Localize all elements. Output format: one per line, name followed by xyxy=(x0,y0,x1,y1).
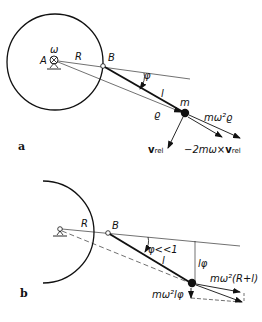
panel-label-b: b xyxy=(20,287,28,300)
mass-dot-b xyxy=(188,279,196,287)
label-vrel: vrel xyxy=(148,144,164,155)
label-coriolis: −2mω×vrel xyxy=(184,144,241,155)
label-l-b: l xyxy=(162,255,165,266)
resultant-arrow xyxy=(196,285,242,302)
panel-label-a: a xyxy=(18,140,25,153)
label-radial-force: mω²(R+l) xyxy=(210,273,258,284)
label-b-b: B xyxy=(112,220,119,231)
label-r-b: R xyxy=(81,218,88,229)
joint-b xyxy=(101,64,106,69)
disk-arc xyxy=(43,181,94,283)
vrel-arrow xyxy=(168,117,183,148)
label-m: m xyxy=(180,97,190,108)
label-deflection: lφ xyxy=(198,258,208,269)
label-omega: ω xyxy=(50,44,58,55)
label-l: l xyxy=(161,88,164,99)
mass-dot xyxy=(181,109,189,117)
label-centrifugal: mω²ϱ xyxy=(204,112,233,123)
label-transverse-force: mω²lφ xyxy=(152,289,184,300)
label-rho: ϱ xyxy=(154,109,161,120)
label-phi: φ xyxy=(144,70,151,81)
label-phi-b: φ<<1 xyxy=(148,244,178,255)
label-a: A xyxy=(39,55,47,66)
panel-a: A ω R B φ l m ϱ mω²ϱ vrel −2mω×vrel a xyxy=(7,14,241,155)
rod-b xyxy=(108,233,191,283)
radial-force-arrow xyxy=(196,284,240,292)
pivot-b-icon xyxy=(53,227,67,236)
label-r: R xyxy=(75,51,82,62)
panel-b: R B φ<<1 l lφ mω²(R+l) mω²lφ b xyxy=(20,181,258,302)
joint-b-b xyxy=(106,231,111,236)
pendulum-diagram: A ω R B φ l m ϱ mω²ϱ vrel −2mω×vrel a xyxy=(0,0,262,322)
label-b: B xyxy=(108,52,115,63)
dashed-line xyxy=(62,231,190,283)
